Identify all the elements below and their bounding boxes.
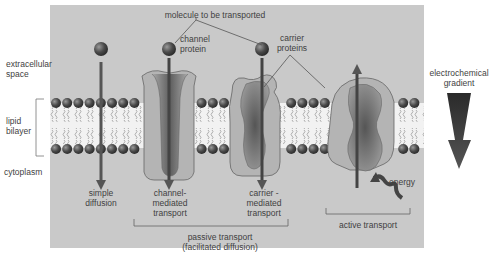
electrochemical-gradient-arrow	[447, 93, 471, 169]
cytoplasm-label: cytoplasm	[4, 167, 42, 177]
bilayer-bracket	[36, 99, 44, 156]
active-transport-label: active transport	[326, 220, 410, 230]
channel-mediated-label: channel-mediatedtransport	[142, 188, 198, 218]
electrochemical-gradient-label: electrochemicalgradient	[420, 68, 496, 88]
carrier-proteins-label: carrierproteins	[270, 33, 314, 53]
membrane-transport-diagram	[0, 0, 496, 264]
simple-diffusion-label: simplediffusion	[76, 188, 126, 208]
carrier-mediated-label: carrier -mediatedtransport	[236, 188, 292, 218]
lipid-bilayer-label: lipidbilayer	[6, 116, 31, 136]
molecule-label: molecule to be transported	[140, 10, 290, 20]
passive-transport-label: passive transport(facilitated diffusion)	[160, 232, 280, 252]
extracellular-space-label: extracellularspace	[6, 59, 52, 79]
channel-protein-label: channelprotein	[180, 34, 210, 54]
energy-label: energy	[389, 177, 415, 187]
